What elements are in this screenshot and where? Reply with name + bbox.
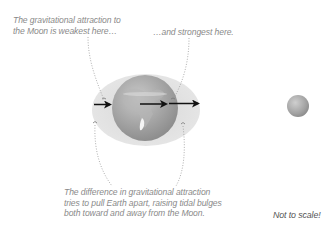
difference-line-2: tries to pull Earth apart, raising tidal… bbox=[64, 198, 222, 209]
difference-line-3: both toward and away from the Moon. bbox=[64, 208, 222, 219]
difference-explanation-label: The difference in gravitational attracti… bbox=[64, 187, 222, 219]
weakest-line-1: The gravitational attraction to bbox=[13, 15, 121, 26]
moon bbox=[287, 95, 309, 117]
weakest-line-2: the Moon is weakest here… bbox=[13, 26, 121, 37]
difference-line-1: The difference in gravitational attracti… bbox=[64, 187, 222, 198]
pointer-mark-left-bottom bbox=[93, 122, 97, 124]
strongest-attraction-label: …and strongest here. bbox=[153, 27, 234, 38]
not-to-scale-note: Not to scale! bbox=[273, 210, 321, 221]
earth bbox=[112, 75, 178, 141]
weakest-attraction-label: The gravitational attraction to the Moon… bbox=[13, 15, 121, 36]
